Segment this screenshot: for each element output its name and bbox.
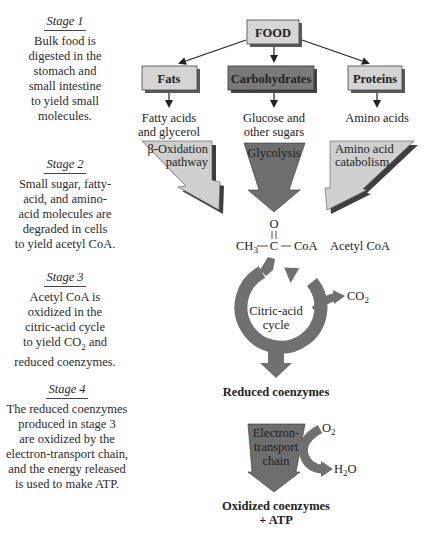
h2o-label: H2O: [334, 462, 357, 478]
etc-label-3: chain: [262, 454, 290, 468]
acetyl-coa-structure: O CH3 C CoA Acetyl CoA: [236, 217, 390, 255]
amino-acid-label-2: catabolism: [335, 155, 389, 169]
oxygen-atom: O: [269, 217, 278, 231]
carbohydrates-label: Carbohydrates: [231, 72, 312, 86]
food-box: FOOD: [247, 20, 302, 47]
atp-label: + ATP: [259, 513, 293, 527]
food-label: FOOD: [255, 26, 291, 40]
sugars-label: other sugars: [244, 125, 305, 139]
proteins-box: Proteins: [348, 66, 405, 93]
etc-label-1: Electron-: [253, 426, 300, 440]
carbohydrates-box: Carbohydrates: [228, 66, 317, 93]
citric-acid-cycle: CO2 Citric-acid cycle: [241, 257, 369, 378]
proteins-label: Proteins: [353, 72, 397, 86]
ch3-group: CH3: [236, 239, 258, 255]
glycerol-label: and glycerol: [138, 125, 201, 139]
metabolism-diagram: FOOD Fats Carbohydrates Proteins Fatty a…: [0, 0, 433, 538]
beta-oxidation-arrow: β-Oxidation pathway: [142, 141, 224, 214]
amino-acids-label: Amino acids: [345, 111, 409, 125]
box-down-arrows: [169, 93, 377, 106]
reduced-coenzymes-label: Reduced coenzymes: [223, 385, 330, 399]
coa-group: CoA: [294, 239, 318, 253]
electron-transport-chain: Electron- transport chain O2 H2O: [248, 421, 357, 492]
glucose-label: Glucose and: [243, 111, 306, 125]
co2-label: CO2: [347, 289, 369, 305]
citric-acid-label-1: Citric-acid: [249, 304, 303, 318]
amino-acid-label-1: Amino acid: [335, 142, 394, 156]
acetyl-coa-label: Acetyl CoA: [330, 239, 390, 253]
citric-acid-label-2: cycle: [263, 318, 290, 332]
o2-label: O2: [322, 421, 336, 437]
beta-oxidation-label-2: pathway: [166, 155, 209, 169]
amino-acid-catabolism-arrow: Amino acid catabolism: [325, 141, 418, 214]
oxidized-coenzymes-label: Oxidized coenzymes: [222, 499, 330, 513]
fatty-acids-label: Fatty acids: [142, 111, 197, 125]
etc-label-2: transport: [254, 440, 299, 454]
carbonyl-carbon: C: [270, 239, 278, 253]
glycolysis-arrow: Glycolysis: [244, 143, 305, 212]
beta-oxidation-label-1: β-Oxidation: [147, 142, 208, 156]
fats-label: Fats: [158, 72, 181, 86]
glycolysis-label: Glycolysis: [247, 146, 301, 160]
fats-box: Fats: [142, 66, 200, 93]
